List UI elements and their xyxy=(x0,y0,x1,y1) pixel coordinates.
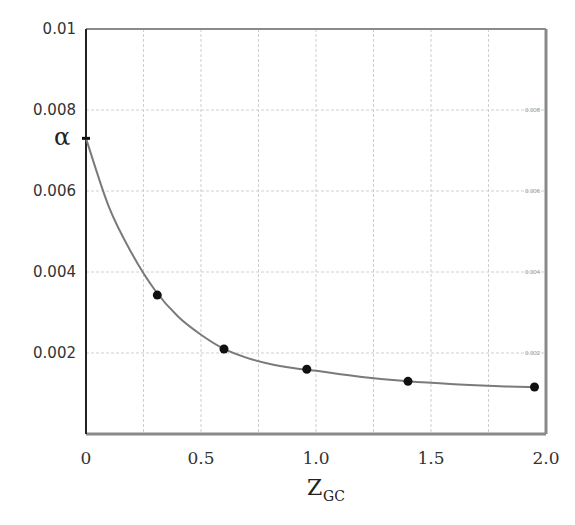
y-tick-label-right: 0.004 xyxy=(525,269,541,275)
gridlines xyxy=(86,29,546,434)
x-tick-label: 2.0 xyxy=(532,448,559,468)
x-axis-ticks: 00.51.01.52.0 xyxy=(81,448,560,468)
data-point xyxy=(404,377,413,386)
y-tick-label: 0.006 xyxy=(33,182,76,200)
x-axis-label-main: Z xyxy=(307,475,322,500)
y-tick-label: 0.01 xyxy=(43,20,76,38)
y-tick-label: 0.008 xyxy=(33,101,76,119)
y-tick-label-right: 0.002 xyxy=(525,350,541,356)
fitted-curve xyxy=(86,138,535,387)
x-axis-label: Z GC xyxy=(307,475,345,504)
x-tick-label: 0.5 xyxy=(187,448,214,468)
y-axis-right-ticks: 0.0080.0060.0040.002 xyxy=(525,107,541,356)
y-tick-label: 0.004 xyxy=(33,263,76,281)
data-point xyxy=(220,344,229,353)
chart: 0.010.0080.0060.0040.002 0.0080.0060.004… xyxy=(0,0,575,525)
data-point xyxy=(302,365,311,374)
x-tick-label: 1.5 xyxy=(417,448,444,468)
alpha-annotation: α xyxy=(54,123,90,151)
alpha-label: α xyxy=(54,123,70,151)
y-tick-label-right: 0.006 xyxy=(525,188,541,194)
y-tick-label: 0.002 xyxy=(33,344,76,362)
y-tick-label-right: 0.008 xyxy=(525,107,541,113)
data-point xyxy=(530,383,539,392)
x-axis-label-subscript: GC xyxy=(323,488,345,504)
x-tick-label: 0 xyxy=(81,448,92,468)
x-tick-label: 1.0 xyxy=(302,448,329,468)
y-axis-left-ticks: 0.010.0080.0060.0040.002 xyxy=(33,20,76,362)
data-point xyxy=(153,291,162,300)
